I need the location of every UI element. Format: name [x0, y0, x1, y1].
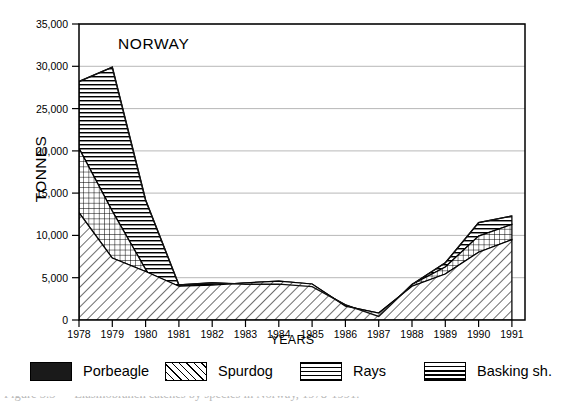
legend-label-porbeagle: Porbeagle	[83, 363, 149, 379]
y-tick-label: 0	[62, 314, 68, 326]
legend-item-basking-shark: Basking sh.	[424, 357, 552, 385]
legend-swatch-spurdog	[165, 362, 207, 381]
x-axis-title: YEARS	[0, 333, 585, 347]
legend-swatch-porbeagle	[30, 362, 72, 381]
y-tick-label: 30,000	[36, 60, 68, 72]
chart-title: NORWAY	[118, 35, 189, 53]
x-axis-ticks	[79, 320, 512, 327]
stacked-area-chart: 35,000 30,000 25,000 20,000 15,000 10,00…	[0, 0, 585, 352]
chart-panel: 35,000 30,000 25,000 20,000 15,000 10,00…	[0, 0, 585, 352]
legend-label-spurdog: Spurdog	[218, 363, 273, 379]
y-tick-label: 35,000	[36, 18, 68, 30]
figure-container: 35,000 30,000 25,000 20,000 15,000 10,00…	[0, 0, 585, 412]
figure-caption-strip: Figure 3.3 — Elasmobranch catches by spe…	[0, 396, 585, 412]
legend-label-basking-shark: Basking sh.	[477, 363, 552, 379]
y-axis-title: TONNES	[32, 89, 50, 249]
chart-legend: Porbeagle Spurdog Rays Basking sh.	[0, 352, 585, 394]
legend-swatch-basking-shark	[424, 362, 466, 381]
y-axis-ticks	[72, 24, 79, 320]
legend-item-spurdog: Spurdog	[165, 357, 273, 385]
legend-item-porbeagle: Porbeagle	[30, 357, 149, 385]
y-tick-label: 5,000	[42, 272, 68, 284]
legend-swatch-rays	[300, 362, 342, 381]
legend-item-rays: Rays	[300, 357, 386, 385]
figure-caption: Figure 3.3 — Elasmobranch catches by spe…	[4, 396, 359, 402]
legend-label-rays: Rays	[353, 363, 386, 379]
